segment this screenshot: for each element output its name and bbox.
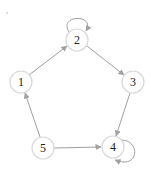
edge-5-1 [25,93,40,137]
node-2-label: 2 [74,33,80,47]
node-3-label: 3 [130,75,136,89]
node-1[interactable]: 1 [10,71,32,93]
edge-1-2 [29,46,67,75]
node-4[interactable]: 4 [102,136,124,158]
stray-dot [6,12,8,14]
edge-5-4 [54,147,101,148]
edge-2-3 [87,46,124,75]
edge-3-4 [116,93,130,136]
node-5-label: 5 [40,141,46,155]
node-5[interactable]: 5 [32,137,54,159]
node-4-label: 4 [110,140,116,154]
graph-canvas: 1 2 3 4 5 [0,0,151,176]
node-1-label: 1 [18,75,24,89]
node-3[interactable]: 3 [122,71,144,93]
node-2[interactable]: 2 [66,29,88,51]
